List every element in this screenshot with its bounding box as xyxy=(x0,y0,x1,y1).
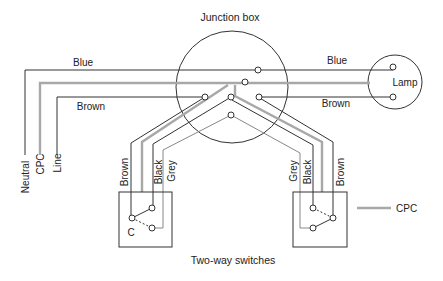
common-label: C xyxy=(127,227,134,238)
lamp-terminal-brown xyxy=(390,94,396,100)
terminal-grey xyxy=(228,112,234,118)
cpc-supply-label: CPC xyxy=(35,153,46,174)
right-switch-black-label: Black xyxy=(302,159,313,184)
right-switch-l1-terminal xyxy=(310,205,316,211)
left-switch-box xyxy=(119,192,172,247)
blue-label-left: Blue xyxy=(73,57,93,68)
left-black-wire xyxy=(153,97,231,208)
left-switch-l2-terminal xyxy=(149,225,155,231)
right-switch-common-terminal xyxy=(330,215,336,221)
brown-label-left: Brown xyxy=(77,101,105,112)
right-switch-brown-label: Brown xyxy=(335,158,346,186)
blue-label-right: Blue xyxy=(327,55,347,66)
brown-label-right: Brown xyxy=(322,98,350,109)
line-label: Line xyxy=(52,153,63,172)
terminal-black xyxy=(228,94,234,100)
left-switch-brown-label: Brown xyxy=(119,158,130,186)
supply-cpc-wire xyxy=(40,83,232,155)
two-way-switches-caption: Two-way switches xyxy=(191,254,276,266)
cpc-legend-label: CPC xyxy=(396,203,417,214)
right-switch-grey-label: Grey xyxy=(288,160,299,182)
neutral-label: Neutral xyxy=(20,161,31,193)
left-switch-black-label: Black xyxy=(153,159,164,184)
junction-box xyxy=(176,31,288,143)
right-switch-box xyxy=(293,192,347,247)
terminal-line xyxy=(202,94,208,100)
left-switch-l1-terminal xyxy=(149,205,155,211)
wiring-diagram: Junction box Lamp Blue Brown Blue Brown … xyxy=(0,0,443,281)
lamp-label: Lamp xyxy=(392,77,417,88)
lamp-terminal-blue xyxy=(390,64,396,70)
terminal-switched xyxy=(256,94,262,100)
left-switch-grey-label: Grey xyxy=(166,160,177,182)
terminal-cpc xyxy=(242,79,248,85)
right-switch-l2-terminal xyxy=(310,225,316,231)
terminal-neutral xyxy=(255,67,261,73)
junction-box-title: Junction box xyxy=(201,11,261,23)
left-switch-common-terminal xyxy=(129,215,135,221)
